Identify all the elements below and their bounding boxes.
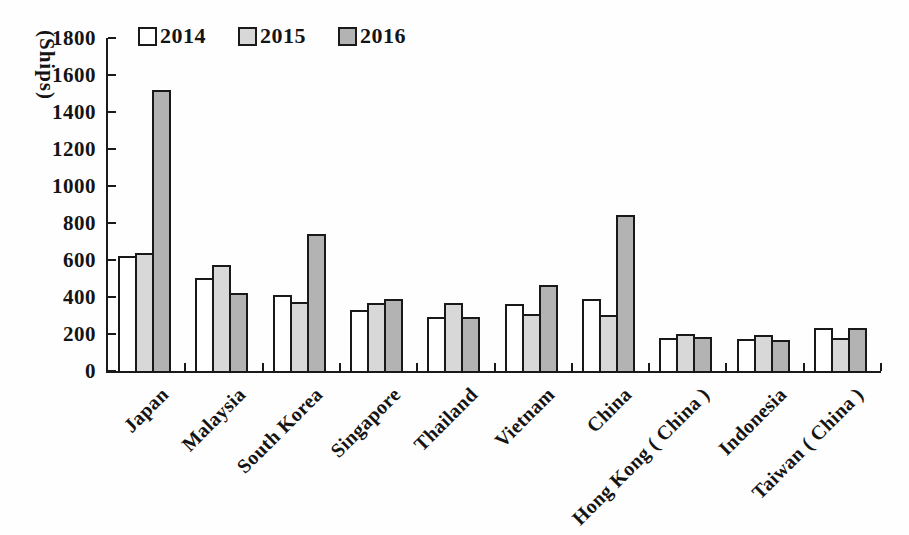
y-tick-label: 800 <box>34 211 96 235</box>
legend-swatch-icon <box>138 27 157 46</box>
bar <box>539 285 558 373</box>
x-category-label: Malaysia <box>100 383 251 534</box>
legend-item-2016: 2016 <box>338 23 406 49</box>
bar <box>616 215 635 373</box>
bar <box>152 90 171 373</box>
y-tick-label: 1000 <box>34 174 96 198</box>
legend-item-2014: 2014 <box>138 23 206 49</box>
y-tick <box>108 111 116 113</box>
x-category-label: Thailand <box>331 383 482 534</box>
y-tick <box>108 370 116 372</box>
y-axis-line <box>106 38 108 373</box>
x-category-label: Hong Kong ( China ) <box>563 383 714 534</box>
y-tick <box>108 37 116 39</box>
legend-label: 2015 <box>260 23 306 49</box>
y-tick-label: 200 <box>34 322 96 346</box>
y-tick-label: 1800 <box>34 26 96 50</box>
bar <box>229 293 248 373</box>
legend-item-2015: 2015 <box>238 23 306 49</box>
x-category-label: Japan <box>22 383 173 534</box>
legend-swatch-icon <box>338 27 357 46</box>
y-tick-label: 400 <box>34 285 96 309</box>
bar <box>693 337 712 373</box>
x-tick <box>880 363 882 371</box>
y-tick <box>108 222 116 224</box>
x-tick <box>416 363 418 371</box>
x-tick <box>339 363 341 371</box>
y-tick <box>108 296 116 298</box>
x-tick <box>494 363 496 371</box>
x-tick <box>262 363 264 371</box>
y-tick-label: 600 <box>34 248 96 272</box>
x-category-label: South Korea <box>177 383 328 534</box>
bar <box>461 317 480 373</box>
y-tick-label: 1600 <box>34 63 96 87</box>
x-tick <box>571 363 573 371</box>
y-tick-label: 1400 <box>34 100 96 124</box>
bar-chart-figure: (Ships) 201420152016 0200400600800100012… <box>0 0 909 535</box>
y-tick <box>108 259 116 261</box>
x-category-label: Vietnam <box>409 383 560 534</box>
x-tick <box>803 363 805 371</box>
bar <box>848 328 867 373</box>
bar <box>384 299 403 373</box>
y-tick <box>108 185 116 187</box>
legend-swatch-icon <box>238 27 257 46</box>
x-category-label: Taiwan ( China ) <box>718 383 869 534</box>
legend: 201420152016 <box>138 23 406 49</box>
y-tick-label: 0 <box>34 359 96 383</box>
y-tick <box>108 333 116 335</box>
x-category-label: Indonesia <box>641 383 792 534</box>
x-tick <box>184 363 186 371</box>
y-tick <box>108 148 116 150</box>
x-category-label: Singapore <box>254 383 405 534</box>
bar <box>771 340 790 373</box>
legend-label: 2014 <box>160 23 206 49</box>
x-tick <box>648 363 650 371</box>
y-tick-label: 1200 <box>34 137 96 161</box>
legend-label: 2016 <box>360 23 406 49</box>
y-tick <box>108 74 116 76</box>
bar <box>307 234 326 373</box>
x-category-label: China <box>486 383 637 534</box>
x-tick <box>725 363 727 371</box>
